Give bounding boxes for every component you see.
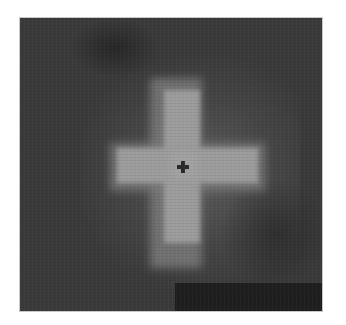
noise-texture [20, 18, 322, 311]
image-frame [20, 18, 322, 311]
